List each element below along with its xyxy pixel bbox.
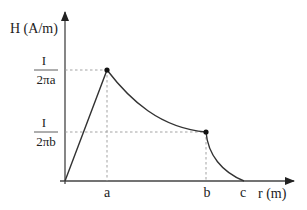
field-curve (65, 70, 244, 181)
svg-text:2πb: 2πb (36, 134, 56, 149)
svg-text:2πa: 2πa (37, 72, 56, 87)
point-b (203, 129, 208, 134)
y-tick-2pia: I 2πa (34, 53, 58, 87)
svg-text:I: I (42, 53, 46, 68)
peak-point-a (104, 67, 109, 72)
y-axis-label: H (A/m) (10, 21, 58, 37)
x-tick-c: c (240, 185, 246, 200)
y-tick-2pib: I 2πb (34, 115, 58, 149)
x-tick-a: a (104, 185, 111, 200)
x-axis-label: r (m) (258, 186, 287, 202)
svg-text:I: I (42, 115, 46, 130)
field-diagram: H (A/m) I 2πa I 2πb a b c r (m) (0, 0, 307, 210)
x-tick-b: b (204, 185, 211, 200)
